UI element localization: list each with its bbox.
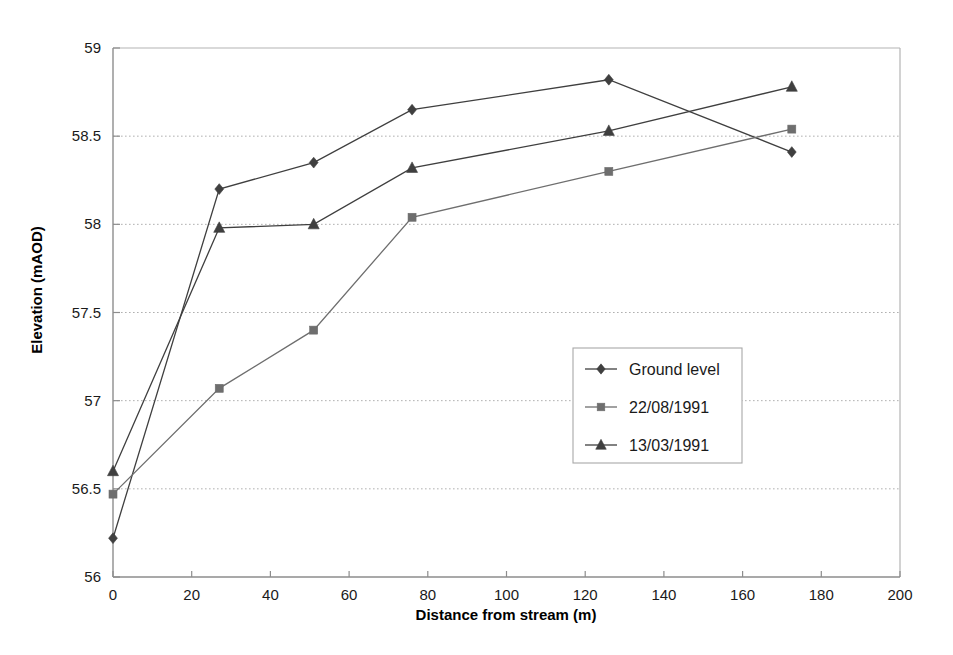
legend-label: 22/08/1991	[629, 399, 709, 416]
chart-legend: Ground level22/08/199113/03/1991	[573, 348, 742, 463]
x-tick-label: 180	[809, 586, 834, 603]
x-axis-title: Distance from stream (m)	[416, 606, 597, 623]
diamond-marker	[787, 147, 796, 158]
square-marker	[408, 213, 416, 221]
series-line	[113, 80, 792, 538]
legend-label: Ground level	[629, 361, 720, 378]
data-series-group	[107, 74, 797, 543]
x-axis-ticks	[113, 571, 900, 577]
diamond-marker	[309, 157, 318, 168]
legend-label: 13/03/1991	[629, 437, 709, 454]
square-marker	[788, 125, 796, 133]
diamond-marker	[215, 184, 224, 195]
x-tick-label: 60	[341, 586, 358, 603]
y-tick-label: 57.5	[72, 304, 101, 321]
x-tick-label: 160	[730, 586, 755, 603]
y-axis-title: Elevation (mAOD)	[28, 226, 45, 354]
x-tick-label: 80	[419, 586, 436, 603]
square-marker	[597, 403, 605, 411]
x-axis-tick-labels: 020406080100120140160180200	[109, 586, 913, 603]
x-tick-label: 120	[573, 586, 598, 603]
square-marker	[310, 326, 318, 334]
y-tick-label: 56.5	[72, 480, 101, 497]
y-tick-label: 57	[84, 392, 101, 409]
gridlines	[113, 136, 900, 489]
chart-container: 020406080100120140160180200 5656.55757.5…	[0, 0, 953, 655]
x-tick-label: 0	[109, 586, 117, 603]
x-tick-label: 20	[183, 586, 200, 603]
triangle-marker	[107, 465, 118, 476]
y-axis-tick-labels: 5656.55757.55858.559	[72, 39, 101, 585]
square-marker	[605, 167, 613, 175]
y-tick-label: 56	[84, 568, 101, 585]
y-tick-label: 58	[84, 215, 101, 232]
square-marker	[215, 384, 223, 392]
triangle-marker	[308, 218, 319, 229]
x-tick-label: 100	[494, 586, 519, 603]
x-tick-label: 40	[262, 586, 279, 603]
x-tick-label: 140	[651, 586, 676, 603]
x-tick-label: 200	[887, 586, 912, 603]
diamond-marker	[604, 74, 613, 85]
series-1	[109, 74, 797, 543]
square-marker	[109, 490, 117, 498]
y-tick-label: 58.5	[72, 127, 101, 144]
triangle-marker	[786, 81, 797, 92]
y-tick-label: 59	[84, 39, 101, 56]
line-chart: 020406080100120140160180200 5656.55757.5…	[0, 0, 953, 655]
diamond-marker	[109, 533, 118, 544]
diamond-marker	[408, 104, 417, 115]
